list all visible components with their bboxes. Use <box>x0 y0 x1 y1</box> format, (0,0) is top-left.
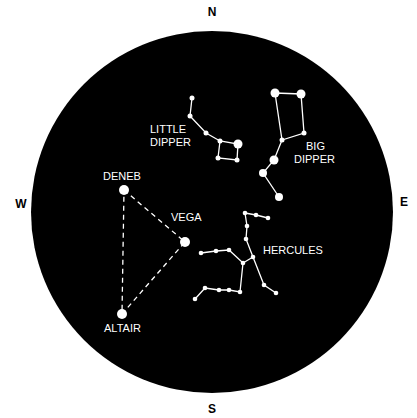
altair-label: ALTAIR <box>104 322 141 334</box>
south-label: S <box>208 402 216 416</box>
west-label: W <box>15 197 27 211</box>
deneb-label: DENEB <box>103 170 141 182</box>
north-label: N <box>208 5 217 19</box>
big-dipper-label-1: BIG <box>306 140 325 152</box>
big-dipper-label-2: DIPPER <box>294 153 335 165</box>
vega-label: VEGA <box>171 211 202 223</box>
hercules-label: HERCULES <box>263 244 323 256</box>
star-chart: N S E W LITTLE DIPPER BIG DIPPER DENEB V… <box>0 0 417 418</box>
little-dipper-label-1: LITTLE <box>150 123 186 135</box>
east-label: E <box>400 195 408 209</box>
little-dipper-label-2: DIPPER <box>150 136 191 148</box>
sky-disc <box>31 31 393 393</box>
